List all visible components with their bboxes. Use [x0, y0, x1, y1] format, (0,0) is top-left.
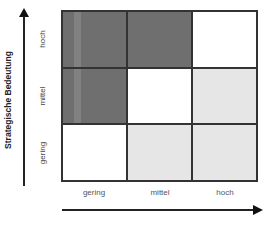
row-label-text: hoch [38, 30, 47, 47]
cell-hoch-mittel [127, 11, 192, 68]
x-axis-title [61, 222, 258, 226]
cell-hoch-hoch [192, 11, 257, 68]
col-label-gering: gering [61, 188, 127, 197]
col-label-hoch: hoch [192, 188, 258, 197]
portfolio-matrix [61, 10, 258, 182]
y-axis-title-text: Strategische Bedeutung [3, 51, 13, 149]
cell-mittel-mittel [127, 68, 192, 125]
x-axis-line [62, 209, 254, 211]
col-label-mittel: mittel [127, 188, 193, 197]
cell-gering-gering [62, 124, 127, 181]
cell-hoch-gering [62, 11, 127, 68]
row-label-text: gering [38, 142, 47, 164]
cell-mittel-hoch [192, 68, 257, 125]
cell-mittel-gering [62, 68, 127, 125]
cell-gering-mittel [127, 124, 192, 181]
y-axis-line [23, 16, 25, 186]
cell-gering-hoch [192, 124, 257, 181]
x-axis-arrowhead-icon [253, 205, 263, 215]
row-label-text: mittel [38, 86, 47, 105]
